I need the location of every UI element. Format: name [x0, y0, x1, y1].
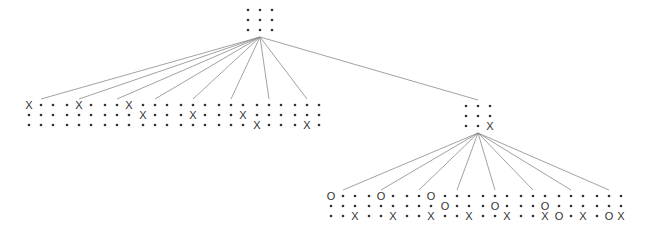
empty-cell: [570, 205, 573, 208]
empty-cell: [456, 215, 459, 218]
empty-cell: [582, 195, 585, 198]
empty-cell: [406, 215, 409, 218]
level2-board: OX: [441, 195, 474, 222]
empty-cell: [620, 195, 623, 198]
empty-cell: [570, 195, 573, 198]
x-mark: X: [303, 119, 311, 131]
empty-cell: [520, 195, 523, 198]
tree-edge: [155, 37, 260, 99]
level2-board: OX: [520, 195, 550, 222]
empty-cell: [268, 104, 271, 107]
empty-cell: [271, 29, 274, 32]
empty-cell: [192, 124, 195, 127]
tree-edge: [343, 133, 478, 190]
x-mark: X: [253, 119, 261, 131]
empty-cell: [368, 205, 371, 208]
empty-cell: [558, 205, 561, 208]
x-mark: X: [139, 109, 147, 121]
empty-cell: [468, 195, 471, 198]
empty-cell: [294, 114, 297, 117]
empty-cell: [104, 114, 107, 117]
x-mark: X: [351, 210, 359, 222]
o-mark: O: [427, 190, 436, 202]
empty-cell: [477, 125, 480, 128]
o-mark: O: [377, 190, 386, 202]
empty-cell: [406, 205, 409, 208]
empty-cell: [596, 215, 599, 218]
game-tree-diagram: XXXXXXXXXOXOXOXOXOXOXOXOX: [0, 0, 658, 232]
x-mark: X: [125, 99, 133, 111]
empty-cell: [256, 114, 259, 117]
empty-cell: [242, 124, 245, 127]
empty-cell: [342, 215, 345, 218]
empty-cell: [154, 104, 157, 107]
empty-cell: [78, 124, 81, 127]
empty-cell: [90, 114, 93, 117]
empty-cell: [128, 124, 131, 127]
empty-cell: [271, 19, 274, 22]
empty-cell: [620, 205, 623, 208]
empty-cell: [28, 114, 31, 117]
tree-edge: [478, 133, 609, 190]
empty-cell: [608, 195, 611, 198]
empty-cell: [204, 124, 207, 127]
empty-cell: [465, 125, 468, 128]
empty-cell: [477, 115, 480, 118]
x-mark: X: [75, 99, 83, 111]
x-mark: X: [465, 210, 473, 222]
empty-cell: [306, 104, 309, 107]
empty-cell: [256, 104, 259, 107]
empty-cell: [489, 115, 492, 118]
empty-cell: [294, 104, 297, 107]
empty-cell: [259, 19, 262, 22]
empty-cell: [456, 205, 459, 208]
expanded-board: X: [465, 105, 495, 132]
empty-cell: [204, 104, 207, 107]
empty-cell: [368, 195, 371, 198]
empty-cell: [104, 104, 107, 107]
tree-edge: [231, 37, 260, 99]
empty-cell: [418, 195, 421, 198]
empty-cell: [392, 205, 395, 208]
empty-cell: [78, 114, 81, 117]
empty-cell: [268, 124, 271, 127]
tree-edge: [260, 37, 478, 100]
empty-cell: [406, 195, 409, 198]
level1-board: X: [66, 99, 93, 126]
empty-cell: [142, 124, 145, 127]
empty-cell: [444, 195, 447, 198]
level1-board: X: [104, 99, 134, 126]
empty-cell: [247, 19, 250, 22]
x-mark: X: [541, 210, 549, 222]
x-mark: X: [389, 210, 397, 222]
empty-cell: [218, 104, 221, 107]
empty-cell: [268, 114, 271, 117]
level2-board: OX: [406, 190, 436, 222]
empty-cell: [306, 114, 309, 117]
empty-cell: [154, 114, 157, 117]
empty-cell: [52, 114, 55, 117]
empty-cell: [52, 104, 55, 107]
empty-cell: [418, 205, 421, 208]
empty-cell: [116, 104, 119, 107]
empty-cell: [218, 114, 221, 117]
level1-board: X: [253, 104, 282, 131]
empty-cell: [318, 114, 321, 117]
empty-cell: [166, 104, 169, 107]
empty-cell: [166, 124, 169, 127]
empty-cell: [180, 114, 183, 117]
x-mark: X: [486, 120, 494, 132]
empty-cell: [544, 195, 547, 198]
empty-cell: [608, 205, 611, 208]
empty-cell: [28, 124, 31, 127]
empty-cell: [271, 9, 274, 12]
empty-cell: [66, 104, 69, 107]
empty-cell: [468, 205, 471, 208]
empty-cell: [204, 114, 207, 117]
empty-cell: [116, 114, 119, 117]
empty-cell: [90, 124, 93, 127]
level2-board: OX: [555, 195, 588, 222]
empty-cell: [52, 124, 55, 127]
o-mark: O: [327, 190, 336, 202]
empty-cell: [180, 124, 183, 127]
